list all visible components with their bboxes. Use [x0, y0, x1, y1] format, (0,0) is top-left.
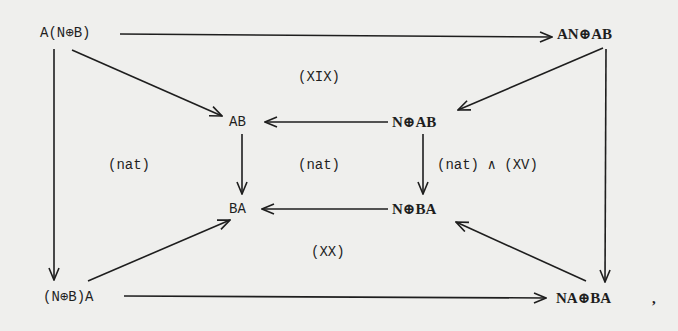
label-nat-center: (nat)	[298, 157, 340, 173]
label-xix: (XIX)	[298, 69, 340, 85]
node-inner-bottom-left: BA	[229, 201, 246, 217]
arrow-bl-to-ba	[88, 220, 230, 281]
arrow-top	[120, 34, 552, 37]
arrow-tl-to-ab	[72, 50, 222, 116]
arrow-bottom	[124, 296, 546, 298]
arrow-right	[605, 49, 606, 282]
label-nat-left: (nat)	[108, 157, 150, 173]
label-nat-xv: (nat) ∧ (XV)	[437, 157, 538, 173]
node-inner-top-right: N⊕AB	[392, 114, 436, 130]
arrow-br-to-nba	[456, 222, 586, 281]
node-bottom-left: (N⊕B)A	[43, 289, 93, 305]
label-xx: (XX)	[311, 244, 345, 260]
trailing-comma: ,	[652, 290, 656, 306]
node-bottom-right: NA⊕BA	[556, 290, 611, 306]
arrow-tr-to-nab	[458, 48, 603, 110]
node-top-left: A(N⊕B)	[40, 25, 90, 41]
node-inner-top-left: AB	[229, 114, 246, 130]
node-top-right: AN⊕AB	[557, 26, 612, 42]
node-inner-bottom-right: N⊕BA	[392, 201, 436, 217]
